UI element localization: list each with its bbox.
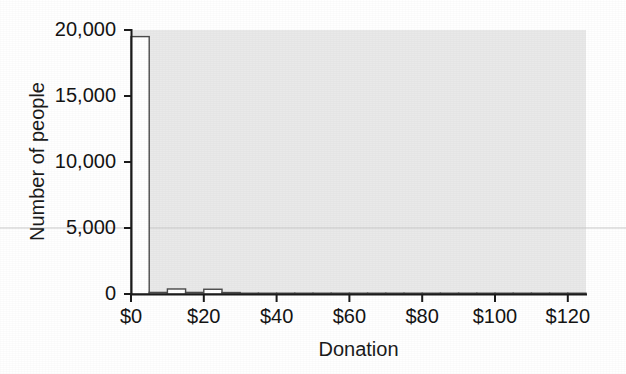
y-axis-title: Number of people	[26, 47, 49, 277]
x-axis-title: Donation	[131, 338, 586, 361]
x-axis-tick-labels: $0$20$40$60$80$100$120	[0, 0, 626, 374]
x-axis-tick-label: $120	[523, 305, 613, 328]
chart-figure: 05,00010,00015,00020,000 $0$20$40$60$80$…	[0, 0, 626, 374]
